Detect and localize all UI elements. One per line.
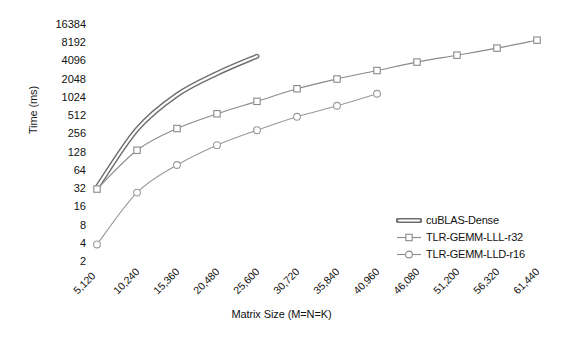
legend-item-label: TLR-GEMM-LLD-r16 [426, 248, 525, 260]
legend-item-label: cuBLAS-Dense [426, 214, 499, 226]
legend-item[interactable]: TLR-GEMM-LLL-r32 [396, 228, 561, 245]
x-axis-tick-label: 30,720 [271, 265, 302, 296]
x-axis-title: Matrix Size (M=N=K) [0, 308, 563, 320]
x-axis-tick-label: 5,120 [71, 270, 98, 297]
x-axis-tick-label: 40,960 [351, 265, 382, 296]
x-axis-tick-label: 35,840 [311, 265, 342, 296]
x-axis-tick-label: 61,440 [511, 265, 542, 296]
legend-swatch-circle [396, 247, 422, 260]
legend-item-label: TLR-GEMM-LLL-r32 [426, 231, 523, 243]
x-axis-tick-labels: 5,12010,24015,36020,48025,60030,72035,84… [0, 0, 563, 344]
chart-legend: cuBLAS-DenseTLR-GEMM-LLL-r32TLR-GEMM-LLD… [396, 211, 561, 262]
legend-item[interactable]: TLR-GEMM-LLD-r16 [396, 245, 561, 262]
x-axis-tick-label: 20,480 [191, 265, 222, 296]
x-axis-tick-label: 10,240 [111, 265, 142, 296]
x-axis-tick-label: 25,600 [231, 265, 262, 296]
chart-figure: Time (ms) 163848192409620481024512256128… [0, 0, 563, 344]
legend-swatch-square [396, 230, 422, 243]
x-axis-tick-label: 56,320 [471, 265, 502, 296]
x-axis-tick-label: 51,200 [431, 265, 462, 296]
legend-swatch-none [396, 213, 422, 226]
x-axis-tick-label: 46,080 [391, 265, 422, 296]
x-axis-tick-label: 15,360 [151, 265, 182, 296]
legend-item[interactable]: cuBLAS-Dense [396, 211, 561, 228]
